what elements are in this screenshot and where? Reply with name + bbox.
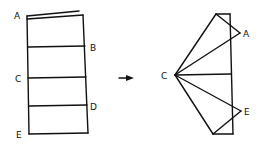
bottom-edge <box>29 133 88 134</box>
label-c: C <box>15 74 21 84</box>
lower-flap-bottom <box>213 111 241 134</box>
label-c-right: C <box>161 71 167 81</box>
label-d: D <box>90 102 97 112</box>
label-e: E <box>16 130 22 140</box>
upper-outer-edge <box>175 14 216 75</box>
label-a-right: A <box>243 29 250 39</box>
upper-flap-fold <box>175 33 240 75</box>
upper-flap-top <box>216 14 240 33</box>
arrow-right-icon <box>119 75 134 81</box>
fold-diagram: A B C D E C A E <box>0 0 264 147</box>
middle-fold <box>175 74 231 75</box>
label-e-right: E <box>244 107 250 117</box>
label-b: B <box>90 43 96 53</box>
left-figure: A B C D E <box>14 11 97 140</box>
fold-line-b <box>28 46 85 47</box>
lower-outer-edge <box>175 75 213 134</box>
fold-line-c <box>28 77 86 78</box>
left-edge <box>27 16 29 134</box>
label-a: A <box>14 11 21 21</box>
right-figure: C A E <box>161 14 250 134</box>
fold-line-d <box>29 105 87 106</box>
right-edge <box>83 15 88 133</box>
